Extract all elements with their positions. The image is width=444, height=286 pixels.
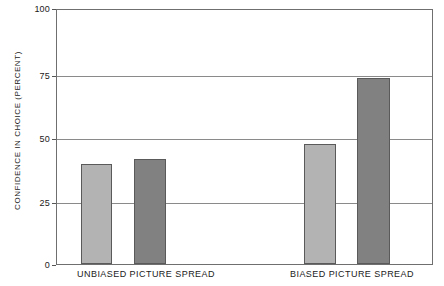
y-tick-label-50: 50: [24, 134, 50, 144]
y-tick-label-0: 0: [24, 260, 50, 270]
bar-biased-light: [304, 144, 336, 264]
y-tick-label-25: 25: [24, 198, 50, 208]
bar-chart: CONFIDENCE IN CHOICE (PERCENT) 100 75 50…: [0, 0, 444, 286]
y-tick-label-75: 75: [24, 71, 50, 81]
plot-area: [56, 9, 433, 265]
bar-biased-dark: [357, 78, 390, 265]
y-tick-mark-0: [52, 265, 56, 266]
category-label-biased: BIASED PICTURE SPREAD: [272, 269, 432, 279]
category-label-unbiased: UNBIASED PICTURE SPREAD: [62, 269, 230, 279]
y-tick-label-100: 100: [24, 4, 50, 14]
y-axis-title: CONFIDENCE IN CHOICE (PERCENT): [13, 31, 22, 231]
bar-unbiased-dark: [134, 159, 166, 264]
bar-unbiased-light: [81, 164, 112, 264]
